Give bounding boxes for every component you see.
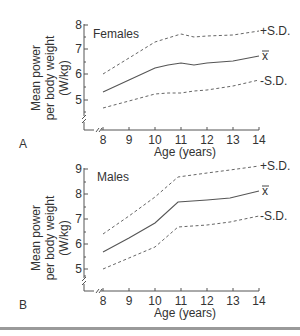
panel-a-ytick-7: 7: [75, 42, 82, 56]
panel-a-ytick-5: 5: [75, 93, 82, 107]
panel-a-legend-minus-sd: -S.D.: [260, 74, 287, 88]
svg-text:(W/kg): (W/kg): [57, 220, 71, 255]
panel-b-mean-line: [103, 191, 259, 252]
svg-text:Mean power: Mean power: [29, 45, 43, 111]
panel-b-xtick: 13: [226, 294, 240, 308]
panel-b-ytick-6: 6: [75, 237, 82, 251]
panel-a-legend-plus-sd: +S.D.: [260, 24, 290, 38]
panel-a-minus-sd-line: [103, 80, 259, 108]
panel-a-xtick: 14: [252, 133, 266, 147]
panel-b-title: Males: [97, 170, 129, 184]
panel-b-ytick-9: 9: [75, 162, 82, 176]
panel-a-title: Females: [93, 27, 139, 41]
panel-a-ytick-8: 8: [75, 18, 82, 32]
bottom-divider: [0, 327, 300, 330]
panel-b-minus-sd-line: [103, 216, 259, 269]
panel-a-xtick: 8: [100, 133, 107, 147]
panel-b-xtick: 9: [126, 294, 133, 308]
panel-a-xtick: 9: [126, 133, 133, 147]
panel-a-mean-line: [103, 56, 259, 92]
svg-text:per body weight: per body weight: [43, 195, 57, 280]
panel-a-x-axis-label: Age (years): [154, 145, 216, 159]
figure: Mean power per body weight (W/kg) 8 7 6 …: [0, 0, 300, 336]
panel-a-ytick-6: 6: [75, 67, 82, 81]
panel-a-label: A: [19, 137, 27, 151]
panel-b-x-axis-label: Age (years): [154, 306, 216, 320]
panel-a-xtick: 13: [226, 133, 240, 147]
panel-b-label: B: [19, 298, 27, 312]
panel-b-y-axis-label: Mean power per body weight (W/kg): [29, 195, 71, 280]
panel-b-y-ticks: [84, 169, 88, 276]
svg-text:per body weight: per body weight: [43, 35, 57, 120]
svg-text:Mean power: Mean power: [29, 205, 43, 271]
panel-b-legend-plus-sd: +S.D.: [260, 159, 290, 173]
panel-b-ytick-5: 5: [75, 262, 82, 276]
panel-a-females: Mean power per body weight (W/kg) 8 7 6 …: [19, 18, 290, 159]
panel-a-y-ticks: [84, 25, 88, 112]
panel-b-ytick-7: 7: [75, 212, 82, 226]
panel-b-legend-minus-sd: -S.D.: [260, 209, 287, 223]
panel-b-xtick: 8: [100, 294, 107, 308]
panel-b-males: Mean power per body weight (W/kg) 9 8 7 …: [19, 159, 290, 320]
panel-b-xtick: 14: [252, 294, 266, 308]
panel-b-ytick-8: 8: [75, 187, 82, 201]
panel-a-y-axis-label: Mean power per body weight (W/kg): [29, 35, 71, 120]
svg-text:(W/kg): (W/kg): [57, 60, 71, 95]
